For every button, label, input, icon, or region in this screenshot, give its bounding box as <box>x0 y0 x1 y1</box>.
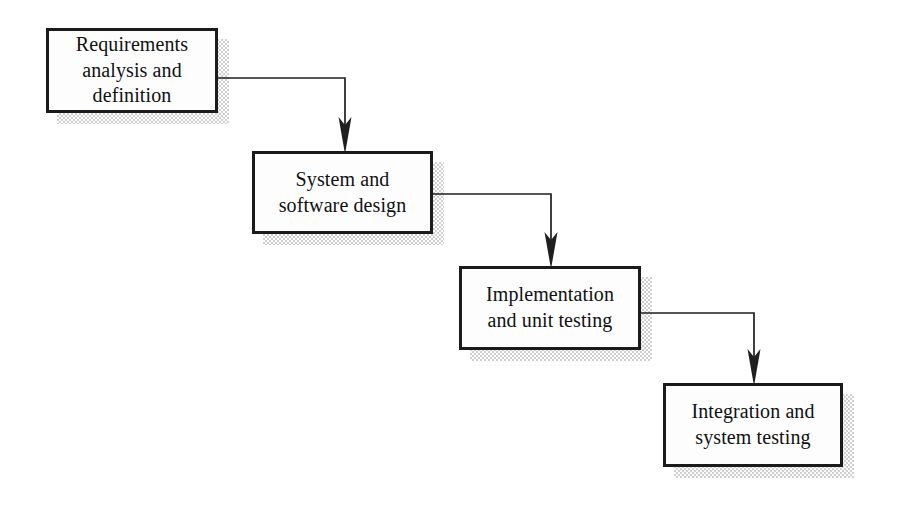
stage-label-requirements: Requirements analysis and definition <box>70 32 194 109</box>
stage-box-integration[interactable]: Integration and system testing <box>663 383 843 467</box>
stage-label-implementation: Implementation and unit testing <box>480 282 620 333</box>
stage-label-integration: Integration and system testing <box>685 399 820 450</box>
waterfall-diagram-canvas: Requirements analysis and definition Sys… <box>0 0 900 513</box>
stage-box-implementation[interactable]: Implementation and unit testing <box>459 266 641 350</box>
stage-box-design[interactable]: System and software design <box>252 151 433 234</box>
stage-label-design: System and software design <box>273 167 413 218</box>
stage-box-requirements[interactable]: Requirements analysis and definition <box>46 28 218 113</box>
